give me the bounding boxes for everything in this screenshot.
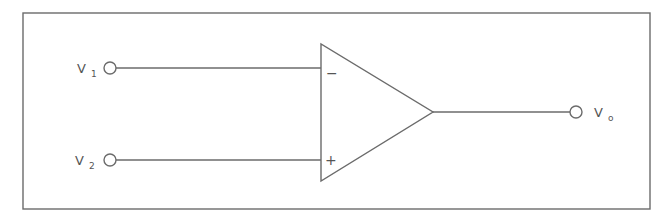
input-1-label-main: V — [77, 61, 86, 76]
input-1-label: V 1 — [77, 61, 97, 79]
inverting-sign: − — [326, 65, 338, 81]
input-2-label-subscript: 2 — [89, 161, 95, 171]
op-amp-triangle — [321, 44, 433, 181]
output-label: V o — [594, 105, 614, 123]
input-2-label-main: V — [75, 153, 84, 168]
input-2-label: V 2 — [75, 153, 95, 171]
op-amp-diagram: − + V 1 V 2 V o — [0, 0, 665, 221]
non-inverting-sign: + — [325, 152, 337, 168]
output-label-subscript: o — [608, 113, 614, 123]
output-label-main: V — [594, 105, 603, 120]
input-1-label-subscript: 1 — [91, 69, 97, 79]
diagram-frame — [23, 13, 650, 209]
input-1-terminal-icon — [104, 62, 116, 74]
input-2-terminal-icon — [104, 154, 116, 166]
output-terminal-icon — [570, 106, 582, 118]
